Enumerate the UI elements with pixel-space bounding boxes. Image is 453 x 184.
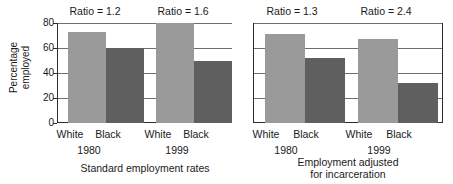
bar-right-1980-white: [265, 34, 305, 123]
group-label-left-1999: 1999: [155, 145, 199, 156]
y-axis-title-line-2: employed: [19, 46, 30, 89]
y-axis-spine-right-left-edge: [253, 23, 254, 123]
bar-left-1999-white: [156, 23, 194, 123]
plot-area-left: [57, 23, 232, 123]
annotation-ratio-left-1999: Ratio = 1.6: [145, 6, 221, 17]
y-tickmark-20: [53, 98, 57, 99]
y-tick-label-60: 60: [32, 43, 54, 53]
y-tickmark-80: [53, 23, 57, 24]
y-axis-spine-left: [57, 23, 58, 123]
y-tick-label-20: 20: [32, 93, 54, 103]
annotation-ratio-right-1980: Ratio = 1.3: [254, 6, 330, 17]
panel-caption-right-line-2: for incarceration: [310, 168, 385, 180]
y-tick-label-0: 0: [32, 118, 54, 128]
y-tickmark-40: [53, 73, 57, 74]
panel-caption-left: Standard employment rates: [45, 163, 245, 175]
bar-right-1980-black: [305, 58, 345, 123]
bar-right-1999-black: [398, 83, 438, 123]
y-axis-title-line-1: Percentage: [8, 42, 19, 93]
group-label-right-1980: 1980: [263, 145, 309, 156]
group-label-right-1999: 1999: [356, 145, 402, 156]
plot-area-right: [253, 23, 443, 123]
panel-employment-adjusted-for-incarceration: [253, 23, 443, 123]
y-tick-label-80: 80: [32, 18, 54, 28]
x-tick-label-right-1999-black: Black: [376, 129, 422, 140]
annotation-ratio-right-1999: Ratio = 2.4: [348, 6, 424, 17]
group-label-left-1980: 1980: [67, 145, 111, 156]
bar-left-1980-black: [106, 48, 144, 123]
y-tickmark-0: [53, 123, 57, 124]
x-tick-label-left-1999-black: Black: [174, 129, 218, 140]
y-axis-tick-labels: 80 60 40 20 0: [32, 18, 54, 128]
y-tick-label-40: 40: [32, 68, 54, 78]
gridline-right-80: [253, 23, 443, 24]
y-axis-title-container: Percentage employed: [0, 22, 34, 126]
x-tick-label-left-1980-black: Black: [86, 129, 130, 140]
x-tick-label-right-1980-black: Black: [283, 129, 329, 140]
y-axis-spine-right-right-edge: [442, 23, 443, 123]
gridline-80: [57, 23, 232, 24]
y-axis-title: Percentage employed: [8, 16, 31, 120]
bar-right-1999-white: [358, 39, 398, 123]
annotation-ratio-left-1980: Ratio = 1.2: [57, 6, 133, 17]
bar-chart-figure: Percentage employed 80 60 40 20 0: [0, 0, 453, 184]
panel-standard-employment-rates: [57, 23, 232, 123]
panel-caption-right-line-1: Employment adjusted: [298, 156, 399, 168]
y-tickmark-60: [53, 48, 57, 49]
panel-caption-right: Employment adjusted for incarceration: [263, 157, 433, 180]
bar-left-1980-white: [68, 32, 106, 123]
bar-left-1999-black: [194, 61, 232, 124]
